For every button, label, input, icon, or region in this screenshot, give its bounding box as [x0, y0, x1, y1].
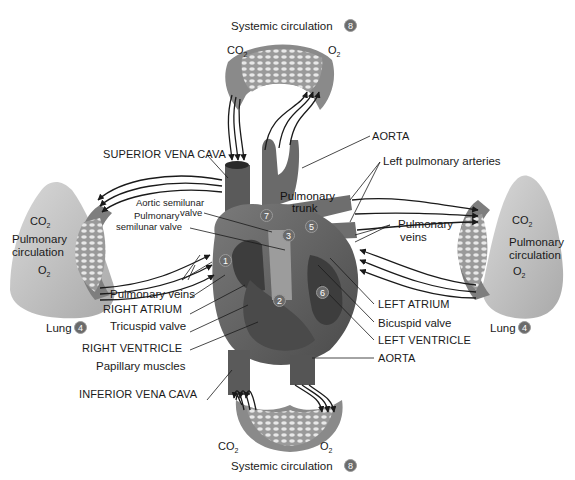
step-badge-8-bottom: 8 — [344, 459, 357, 472]
pulmonary-circulation-left-line1: Pulmonary — [12, 233, 67, 245]
label-superior-vena-cava: SUPERIOR VENA CAVA — [103, 148, 226, 160]
label-left-ventricle: LEFT VENTRICLE — [378, 334, 471, 346]
o2-label-bottom: O2 — [320, 440, 332, 457]
co2-label-right-lung: CO2 — [512, 214, 532, 231]
step-badge-5: 5 — [305, 220, 318, 233]
label-right-ventricle: RIGHT VENTRICLE — [82, 342, 182, 354]
label-pulmonary-semilunar-valve-line1: Pulmonary — [134, 211, 179, 221]
label-pulmonary-semilunar-valve-line2: semilunar valve — [116, 222, 182, 232]
label-inferior-vena-cava: INFERIOR VENA CAVA — [79, 388, 197, 400]
label-left-atrium: LEFT ATRIUM — [378, 298, 450, 310]
pulmonary-circulation-left-line2: circulation — [12, 246, 64, 258]
pulmonary-circulation-right-line2: circulation — [509, 249, 561, 261]
label-papillary-muscles: Papillary muscles — [96, 360, 185, 372]
label-pulmonary-veins-right-line2: veins — [400, 231, 427, 243]
o2-label-left-lung: O2 — [38, 264, 50, 281]
label-left-pulmonary-arteries: Left pulmonary arteries — [383, 155, 501, 167]
step-badge-2: 2 — [273, 294, 286, 307]
step-badge-6: 6 — [316, 286, 329, 299]
co2-label-bottom: CO2 — [218, 440, 238, 457]
step-badge-4-right: 4 — [518, 321, 531, 334]
co2-label-top: CO2 — [227, 44, 247, 61]
step-badge-7: 7 — [260, 209, 273, 222]
label-tricuspid-valve: Tricuspid valve — [110, 320, 186, 332]
co2-label-left-lung: CO2 — [30, 215, 50, 232]
systemic-circulation-bottom-label: Systemic circulation — [231, 460, 333, 472]
o2-label-top: O2 — [328, 44, 340, 61]
o2-label-right-lung: O2 — [513, 265, 525, 282]
label-right-atrium: RIGHT ATRIUM — [103, 303, 182, 315]
label-pulmonary-veins-left: Pulmonary veins — [110, 288, 195, 300]
step-badge-8-top: 8 — [344, 19, 357, 32]
step-badge-3: 3 — [282, 229, 295, 242]
heart — [212, 139, 358, 395]
lung-label-left: Lung — [46, 322, 72, 334]
label-bicuspid-valve: Bicuspid valve — [378, 317, 452, 329]
label-aorta-bottom: AORTA — [378, 352, 415, 364]
lung-label-right: Lung — [490, 322, 516, 334]
label-aorta-top: AORTA — [372, 130, 409, 142]
label-pulmonary-veins-right-line1: Pulmonary — [398, 218, 453, 230]
label-pulmonary-trunk-line1: Pulmonary — [280, 190, 335, 202]
label-pulmonary-trunk-line2: trunk — [292, 202, 318, 214]
step-badge-1: 1 — [219, 254, 232, 267]
label-aortic-semilunar-valve-line2: valve — [180, 208, 202, 218]
step-badge-4-left: 4 — [74, 321, 87, 334]
systemic-circulation-top-label: Systemic circulation — [231, 20, 333, 32]
pulmonary-circulation-right-line1: Pulmonary — [509, 236, 564, 248]
